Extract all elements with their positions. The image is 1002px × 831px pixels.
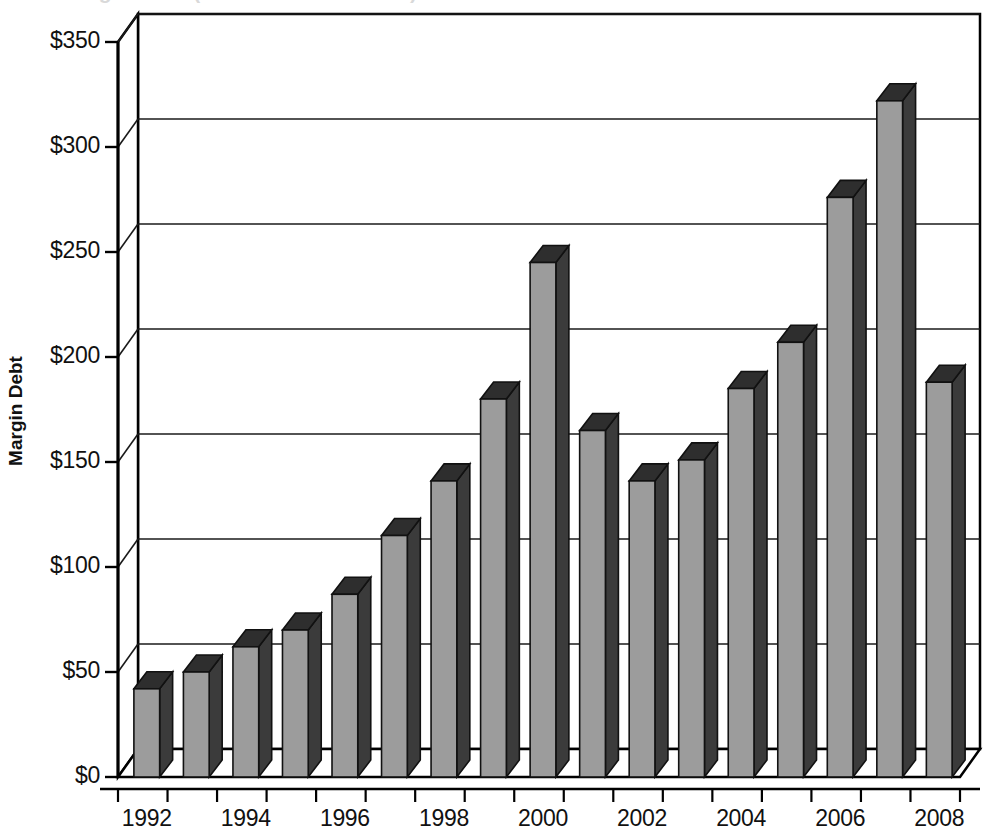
bar-front-face xyxy=(134,689,160,777)
y-axis-title: Margin Debt xyxy=(5,351,27,471)
bar[interactable] xyxy=(877,84,916,777)
y-axis-tick-label: $50 xyxy=(63,657,100,684)
bar[interactable] xyxy=(382,519,421,778)
bar[interactable] xyxy=(134,672,173,777)
bar-side-face xyxy=(457,464,470,777)
x-axis-tick-label: 1992 xyxy=(97,805,197,831)
bar-side-face xyxy=(605,414,618,778)
bar[interactable] xyxy=(827,180,866,777)
bar-front-face xyxy=(282,630,308,777)
plot-area xyxy=(0,0,1002,831)
bar-side-face xyxy=(556,246,569,778)
bar[interactable] xyxy=(629,464,668,777)
bar-front-face xyxy=(530,263,556,778)
y-axis-tick-label: $300 xyxy=(50,132,100,159)
bar[interactable] xyxy=(233,630,272,777)
y-axis-tick-label: $200 xyxy=(50,342,100,369)
bar-side-face xyxy=(259,630,272,777)
margin-debt-bar-chart: Margin Debt (in billions of dollars) $0$… xyxy=(0,0,1002,831)
bar-side-face xyxy=(952,365,965,777)
bar[interactable] xyxy=(183,655,222,777)
x-axis-tick-label: 1996 xyxy=(295,805,395,831)
bar-front-face xyxy=(481,399,507,777)
bar-front-face xyxy=(728,389,754,778)
bar-front-face xyxy=(877,101,903,777)
y-axis-tick-label: $150 xyxy=(50,447,100,474)
bar[interactable] xyxy=(431,464,470,777)
bar-front-face xyxy=(431,481,457,777)
bar-side-face xyxy=(754,372,767,778)
bar[interactable] xyxy=(530,246,569,778)
x-axis-tick-label: 2002 xyxy=(592,805,692,831)
bar[interactable] xyxy=(282,613,321,777)
x-axis-tick-label: 1998 xyxy=(394,805,494,831)
bar[interactable] xyxy=(580,414,619,778)
x-axis-tick-label: 1994 xyxy=(196,805,296,831)
bar[interactable] xyxy=(926,365,965,777)
bar-side-face xyxy=(407,519,420,778)
bar-side-face xyxy=(358,577,371,777)
bar-front-face xyxy=(629,481,655,777)
bar[interactable] xyxy=(728,372,767,778)
bar-front-face xyxy=(778,342,804,777)
bar-side-face xyxy=(308,613,321,777)
bar-front-face xyxy=(382,536,408,778)
bar-side-face xyxy=(160,672,173,777)
bar[interactable] xyxy=(332,577,371,777)
bar-side-face xyxy=(804,325,817,777)
bar-front-face xyxy=(580,431,606,778)
bar-side-face xyxy=(704,443,717,777)
bar-front-face xyxy=(827,197,853,777)
bar-front-face xyxy=(679,460,705,777)
x-axis-tick-label: 2004 xyxy=(691,805,791,831)
y-axis-tick-label: $250 xyxy=(50,237,100,264)
y-axis-tick-label: $350 xyxy=(50,27,100,54)
bar-front-face xyxy=(926,382,952,777)
chart-left-wall xyxy=(118,14,138,777)
bar-side-face xyxy=(903,84,916,777)
bar-side-face xyxy=(209,655,222,777)
bar[interactable] xyxy=(778,325,817,777)
bar-front-face xyxy=(183,672,209,777)
y-axis-tick-label: $0 xyxy=(75,762,100,789)
bar-front-face xyxy=(332,594,358,777)
y-axis-tick-label: $100 xyxy=(50,552,100,579)
bar-front-face xyxy=(233,647,259,777)
bar-side-face xyxy=(853,180,866,777)
bar-side-face xyxy=(506,382,519,777)
bar[interactable] xyxy=(679,443,718,777)
x-axis-tick-label: 2008 xyxy=(889,805,989,831)
bar-side-face xyxy=(655,464,668,777)
x-axis-tick-label: 2006 xyxy=(790,805,890,831)
x-axis-tick-label: 2000 xyxy=(493,805,593,831)
bar[interactable] xyxy=(481,382,520,777)
